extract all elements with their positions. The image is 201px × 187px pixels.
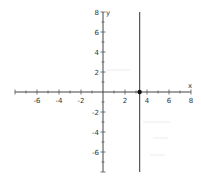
axes xyxy=(15,12,191,172)
x-tick-label: -2 xyxy=(78,97,85,105)
tick-labels: -6-4-224688642-2-4-6 xyxy=(34,9,194,157)
x-tick-label: 4 xyxy=(145,97,150,105)
x-tick-label: -4 xyxy=(56,97,64,105)
y-tick-label: 2 xyxy=(95,69,99,77)
y-axis-label: y xyxy=(106,9,110,17)
y-tick-label: -2 xyxy=(92,109,99,117)
faint-artifacts xyxy=(106,70,170,155)
coordinate-plane: -6-4-224688642-2-4-6 x y xyxy=(0,0,201,187)
y-tick-label: 6 xyxy=(95,29,100,37)
x-axis-label: x xyxy=(188,82,192,90)
x-tick-label: 6 xyxy=(167,97,172,105)
x-tick-label: 2 xyxy=(123,97,127,105)
x-tick-label: 8 xyxy=(189,97,193,105)
y-tick-label: 4 xyxy=(95,49,100,57)
series xyxy=(137,12,141,172)
x-tick-label: -6 xyxy=(34,97,42,105)
y-tick-label: -4 xyxy=(92,129,100,137)
y-tick-label: 8 xyxy=(95,9,99,17)
y-tick-label: -6 xyxy=(92,149,100,157)
data-point xyxy=(137,90,141,94)
